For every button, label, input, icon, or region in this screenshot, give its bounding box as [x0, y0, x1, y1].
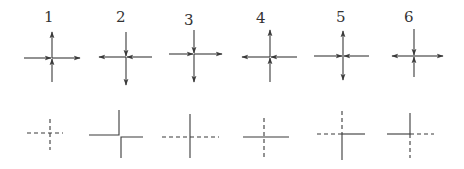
label-1: 1: [44, 8, 54, 26]
label-4: 4: [256, 9, 266, 27]
label-2: 2: [116, 8, 126, 26]
resolution-5: [317, 111, 365, 160]
label-3: 3: [184, 11, 194, 29]
crossing-2: 2: [99, 8, 152, 85]
label-5: 5: [336, 8, 346, 26]
resolution-6: [387, 113, 434, 158]
solid-corner-upper-left: [89, 110, 119, 135]
solid-corner-lower-right: [121, 137, 143, 158]
label-6: 6: [404, 8, 414, 26]
crossing-diagram-figure: 1 2 3 4 5 6: [0, 0, 464, 169]
crossing-3: 3: [169, 11, 222, 82]
resolution-1: [27, 119, 63, 150]
crossing-6: 6: [392, 8, 443, 77]
resolution-3: [162, 114, 219, 158]
resolution-2: [89, 110, 143, 158]
crossing-5: 5: [314, 8, 369, 80]
crossing-1: 1: [24, 8, 80, 82]
crossing-4: 4: [242, 9, 297, 82]
resolution-4: [243, 118, 289, 157]
